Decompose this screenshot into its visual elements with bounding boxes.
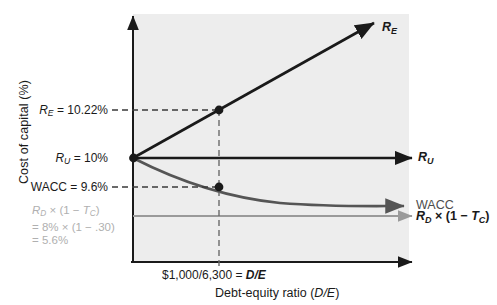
tick-label-wacc: WACC = 9.6%: [0, 180, 108, 194]
annotation-rd-mid: × (1 −: [46, 204, 82, 216]
annotation-rd-line3: = 5.6%: [32, 234, 115, 248]
series-label-rd-mid: × (1 −: [432, 209, 472, 223]
annotation-rd-line2: = 8% × (1 − .30): [32, 221, 115, 235]
tick-label-wacc-text: WACC = 9.6%: [31, 180, 108, 194]
annotation-rd-line1: RD × (1 − TC): [32, 204, 115, 221]
figure-root: Cost of capital (%): [0, 0, 497, 305]
marker-origin: [129, 154, 138, 163]
tick-label-ru: RU = 10%: [0, 151, 108, 166]
series-label-ru: RU: [418, 150, 434, 166]
tick-label-re-symbol: R: [39, 103, 48, 117]
x-axis-marker-value: $1,000/6,300 =: [162, 268, 246, 282]
series-label-ru-symbol: R: [418, 150, 427, 164]
annotation-tc-symbol: T: [83, 204, 90, 216]
tick-label-re: RE = 10.22%: [0, 103, 108, 118]
series-label-rd-symbol: R: [416, 209, 425, 223]
marker-re-point: [215, 106, 224, 115]
x-axis-title-pre: Debt-equity ratio (: [215, 286, 314, 300]
annotation-rd-after-tax: RD × (1 − TC) = 8% × (1 − .30) = 5.6%: [32, 204, 115, 248]
annotation-rd-end: ): [96, 204, 100, 216]
tick-label-ru-symbol: R: [55, 151, 64, 165]
tick-label-re-value: = 10.22%: [54, 103, 108, 117]
x-axis-marker-note: $1,000/6,300 = D/E: [162, 268, 266, 282]
x-axis-title-ratio: D/E: [314, 286, 335, 300]
series-label-rd-end: ): [485, 209, 489, 223]
x-axis-marker-ratio: D/E: [246, 268, 266, 282]
plot-background: [133, 14, 409, 262]
series-label-re: RE: [382, 20, 397, 36]
series-label-re-subscript: E: [391, 26, 397, 36]
x-axis-title-post: ): [335, 286, 339, 300]
marker-wacc-point: [215, 183, 224, 192]
x-axis-title: Debt-equity ratio (D/E): [215, 286, 339, 300]
tick-label-ru-value: = 10%: [70, 151, 108, 165]
series-label-ru-subscript: U: [427, 156, 434, 166]
series-label-tc-symbol: T: [471, 209, 479, 223]
series-label-re-symbol: R: [382, 20, 391, 34]
series-label-rd-after-tax: RD × (1 − TC): [416, 209, 489, 225]
y-axis-title-text: Cost of capital (%): [17, 80, 31, 184]
